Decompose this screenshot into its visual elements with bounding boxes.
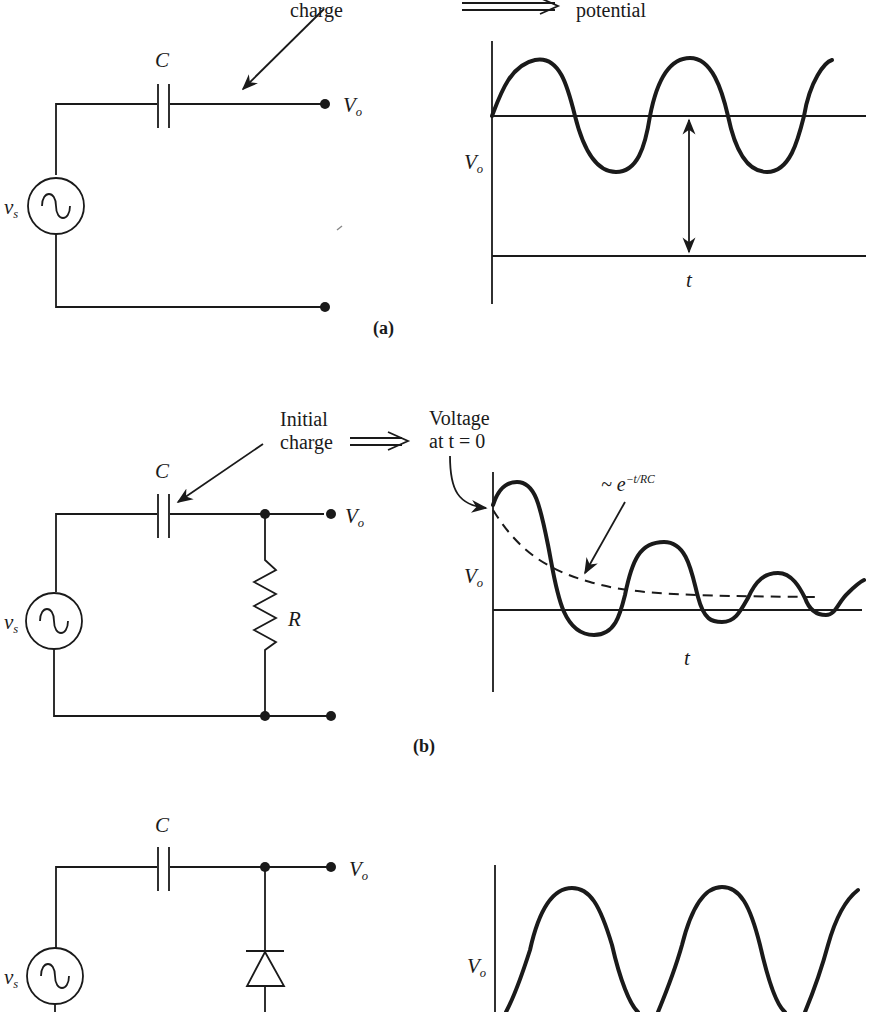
capacitor-label: C — [155, 461, 169, 482]
diode-icon — [246, 867, 284, 1012]
y-axis-label: Vo — [467, 956, 486, 979]
output-waveform — [506, 887, 858, 1012]
charge-label: charge — [280, 432, 333, 452]
panel-c-circuit — [27, 847, 336, 1012]
resistor-label: R — [288, 609, 301, 630]
envelope-pointer-arrow — [585, 502, 625, 573]
implies-arrow-icon — [350, 432, 408, 450]
y-axis-label: Vo — [464, 566, 483, 589]
output-waveform — [493, 482, 864, 635]
y-axis-label: Vo — [464, 152, 483, 175]
voltage-label: Voltage — [429, 408, 490, 428]
charge-label: charge — [290, 0, 343, 20]
initial-label: Initial — [280, 409, 328, 429]
panel-a-circuit — [28, 9, 342, 312]
implies-arrow-icon — [462, 0, 558, 14]
panel-b-circuit — [26, 444, 336, 721]
capacitor-label: C — [155, 50, 169, 71]
t0-pointer-arrow — [450, 456, 486, 508]
potential-label: potential — [576, 0, 646, 20]
output-voltage-label: Vo — [343, 95, 362, 118]
envelope-label: ~ e−t/RC — [601, 474, 655, 494]
resistor-icon — [254, 514, 276, 716]
at-t-zero-label: at t = 0 — [429, 431, 485, 451]
panel-c-graph — [495, 865, 858, 1012]
source-voltage-label: vs — [4, 197, 18, 220]
x-axis-label: t — [686, 270, 692, 291]
panel-b-graph — [450, 456, 864, 692]
output-waveform — [492, 58, 832, 172]
charge-pointer-arrow — [243, 9, 324, 89]
x-axis-label: t — [684, 648, 690, 669]
circuit-diagram-canvas — [0, 0, 884, 1012]
source-voltage-label: vs — [4, 612, 18, 635]
source-voltage-label: vs — [4, 967, 18, 990]
ground-terminal — [326, 711, 336, 721]
panel-b-caption: (b) — [413, 737, 435, 755]
output-voltage-label: Vo — [349, 859, 368, 882]
panel-a-graph — [492, 41, 866, 304]
output-terminal — [320, 99, 330, 109]
charge-pointer-arrow — [178, 444, 263, 502]
output-terminal — [326, 862, 336, 872]
ground-terminal — [320, 302, 330, 312]
output-terminal — [326, 509, 336, 519]
capacitor-label: C — [155, 815, 169, 836]
panel-a-caption: (a) — [373, 319, 394, 337]
output-voltage-label: Vo — [345, 506, 364, 529]
